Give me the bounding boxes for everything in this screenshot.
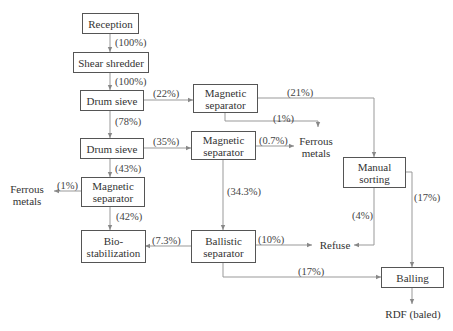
edge-label-ballistic-bio: (7.3%) — [152, 235, 181, 246]
node-manual-sorting: Manual sorting — [343, 157, 406, 188]
edge-label-drum-sieve-drum-sieve: (78%) — [115, 116, 141, 127]
edge-label-manual-refuse: (4%) — [352, 210, 373, 221]
node-label: Manual sorting — [358, 161, 392, 185]
node-label: Magnetic separator — [92, 180, 134, 204]
edge-label-magnetic-manual: (21%) — [287, 87, 313, 98]
node-magnetic-separator-3: Magnetic separator — [81, 177, 145, 207]
node-label: Magnetic separator — [203, 134, 245, 158]
node-drum-sieve-2: Drum sieve — [80, 138, 144, 159]
node-ballistic-separator: Ballistic separator — [191, 230, 256, 263]
node-balling: Balling — [381, 267, 444, 288]
edge-label-ballistic-balling: (17%) — [298, 266, 324, 277]
node-magnetic-separator-1: Magnetic separator — [193, 84, 258, 113]
node-label: Bio- stabilization — [87, 235, 141, 259]
edge-label-drum-sieve-magnetic-2: (35%) — [153, 136, 179, 147]
edge-label-drum-sieve-magnetic: (22%) — [153, 88, 179, 99]
node-label: Magnetic separator — [205, 87, 247, 111]
edge-label-drum-sieve-magnetic-3: (43%) — [115, 163, 141, 174]
edge-label-magnetic-ballistic: (34.3%) — [227, 186, 261, 197]
node-label: Balling — [396, 272, 428, 284]
node-bio-stabilization: Bio- stabilization — [81, 230, 146, 263]
edge-label-shredder-drum-sieve: (100%) — [115, 76, 147, 87]
output-ferrous-metals-left: Ferrous metals — [4, 183, 50, 207]
node-magnetic-separator-2: Magnetic separator — [191, 131, 256, 160]
edge-label-ballistic-refuse: (10%) — [258, 234, 284, 245]
output-ferrous-metals-right: Ferrous metals — [291, 135, 341, 159]
node-reception: Reception — [82, 13, 139, 34]
edge-label-magnetic-ferrous-2: (0.7%) — [259, 135, 288, 146]
node-label: Ballistic separator — [203, 235, 243, 259]
node-label: Reception — [88, 18, 133, 30]
node-label: Drum sieve — [86, 95, 137, 107]
edge-label-reception-shredder: (100%) — [115, 37, 147, 48]
edge-label-magnetic-ferrous-3: (1%) — [57, 180, 78, 191]
node-label: Shear shredder — [78, 57, 144, 69]
edge-label-magnetic-bio: (42%) — [116, 211, 142, 222]
node-drum-sieve-1: Drum sieve — [80, 90, 144, 111]
node-shear-shredder: Shear shredder — [73, 52, 149, 73]
edge-label-manual-balling: (17%) — [414, 192, 440, 203]
output-refuse: Refuse — [318, 239, 352, 251]
output-rdf-baled: RDF (baled) — [383, 308, 443, 320]
node-label: Drum sieve — [86, 143, 137, 155]
edge-label-magnetic-ferrous: (1%) — [273, 113, 294, 124]
